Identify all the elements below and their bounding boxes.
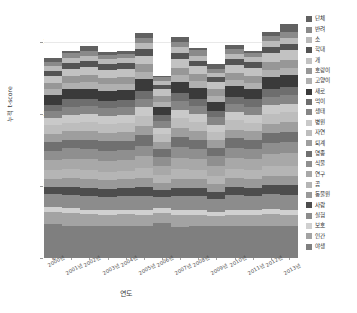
plot-area [44, 20, 298, 258]
y-tick-mark [40, 186, 43, 187]
bar-segment [171, 169, 189, 178]
legend-item[interactable]: 야생 [306, 242, 357, 252]
bar-segment [225, 178, 243, 187]
legend-item[interactable]: 먹이 [306, 97, 357, 107]
legend-item[interactable]: 식물 [306, 159, 357, 169]
bar-segment [189, 215, 207, 227]
legend-color-swatch [306, 171, 312, 177]
bar-segment [135, 196, 153, 210]
bar-segment [225, 169, 243, 178]
legend-color-swatch [306, 213, 312, 219]
x-tick-mark [126, 258, 127, 260]
bar-segment [62, 213, 80, 226]
bar-segment [153, 149, 171, 157]
bar-segment [280, 185, 298, 194]
legend-item[interactable]: 학대 [306, 45, 357, 55]
bar-segment [225, 86, 243, 97]
bar-segment [153, 107, 171, 116]
bar-segment [135, 64, 153, 72]
bar-segment [207, 176, 225, 184]
legend-item[interactable]: 실험 [306, 211, 357, 221]
legend-item-label: 퇴계 [315, 141, 325, 147]
legend-item[interactable]: 소 [306, 35, 357, 45]
legend-item[interactable]: 사람 [306, 200, 357, 210]
x-tick-mark [162, 258, 163, 260]
bar-segment [80, 170, 98, 179]
bar-segment [135, 107, 153, 116]
bar-segment [153, 166, 171, 175]
legend-item-label: 영종 [315, 151, 325, 157]
bar-column [135, 20, 153, 258]
legend-item-label: 실험 [315, 213, 325, 219]
legend-item[interactable]: 자연 [306, 128, 357, 138]
bar-segment [244, 68, 262, 76]
bar-segment [135, 156, 153, 168]
bar-segment [280, 176, 298, 185]
legend-item[interactable]: 개 [306, 55, 357, 65]
legend-item[interactable]: 동물원 [306, 190, 357, 200]
bar-segment [244, 107, 262, 115]
legend-item[interactable]: 단체 [306, 14, 357, 24]
bar-segment [117, 90, 135, 100]
bar-segment [280, 132, 298, 142]
bar-segment [262, 166, 280, 176]
bar-segment [262, 89, 280, 97]
legend-item[interactable]: 고양이 [306, 76, 357, 86]
bar-segment [117, 160, 135, 171]
bar-segment [44, 111, 62, 118]
bar-segment [207, 166, 225, 176]
bar-segment [189, 188, 207, 196]
legend-item[interactable]: 곰 [306, 180, 357, 190]
bar-segment [280, 153, 298, 165]
bar-segment [117, 123, 135, 132]
legend-item[interactable]: 호랑이 [306, 66, 357, 76]
x-tick-mark [216, 258, 217, 260]
bar-segment [153, 142, 171, 149]
bar-column [153, 20, 171, 258]
legend-item[interactable]: 병원 [306, 117, 357, 127]
bar-segment [225, 195, 243, 209]
bar-segment [189, 74, 207, 81]
bar-segment [207, 184, 225, 192]
legend-item-label: 새로 [315, 89, 325, 95]
bar-segment [98, 101, 116, 108]
bar-segment [62, 159, 80, 170]
bar-segment [225, 104, 243, 112]
legend-color-swatch [306, 192, 312, 198]
bar-segment [98, 91, 116, 101]
legend-item[interactable]: 연구 [306, 169, 357, 179]
bar-segment [135, 91, 153, 99]
legend-item[interactable]: 새로 [306, 86, 357, 96]
legend-item[interactable]: 반려 [306, 24, 357, 34]
legend: 단체반려소학대개호랑이고양이새로먹이생태병원자연퇴계영종식물연구곰동물원사람실험… [306, 14, 357, 252]
x-tick-mark [144, 258, 145, 260]
bar-segment [244, 149, 262, 159]
bar-segment [117, 107, 135, 115]
legend-item[interactable]: 보호 [306, 221, 357, 231]
legend-color-swatch [306, 151, 312, 157]
y-tick-mark [40, 42, 43, 43]
bar-segment [244, 179, 262, 188]
bar-segment [225, 97, 243, 104]
bar-segment [207, 156, 225, 165]
legend-item[interactable]: 인간 [306, 231, 357, 241]
legend-color-swatch [306, 202, 312, 208]
bar-column [207, 20, 225, 258]
x-tick-mark [271, 258, 272, 260]
bar-segment [62, 187, 80, 195]
bar-segment [62, 99, 80, 106]
bar-segment [189, 99, 207, 106]
legend-color-swatch [306, 109, 312, 115]
legend-item[interactable]: 영종 [306, 148, 357, 158]
legend-color-swatch [306, 16, 312, 22]
bar-segment [244, 76, 262, 83]
bar-segment [280, 122, 298, 131]
bar-segment [262, 97, 280, 106]
bar-segment [262, 194, 280, 209]
bar-segment [171, 68, 189, 75]
legend-item[interactable]: 퇴계 [306, 138, 357, 148]
legend-item[interactable]: 생태 [306, 107, 357, 117]
bar-segment [225, 120, 243, 129]
legend-item-label: 식물 [315, 161, 325, 167]
x-tick-label: 2005년 [137, 261, 156, 276]
